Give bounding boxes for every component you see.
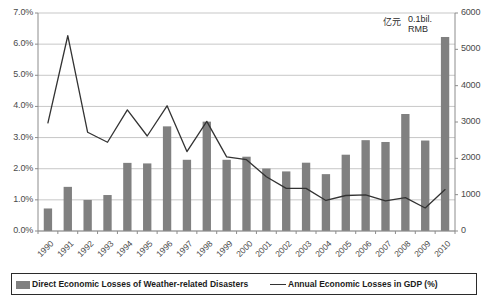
unit-label-english: 0.1bil. RMB xyxy=(408,14,448,34)
y-axis-right-tick: 0 xyxy=(461,225,493,235)
y-axis-right-tick: 2000 xyxy=(461,152,493,162)
bar-series xyxy=(44,37,449,231)
chart-legend: Direct Economic Losses of Weather-relate… xyxy=(11,273,477,295)
y-axis-right-tick: 5000 xyxy=(461,43,493,53)
legend-swatch-bar xyxy=(16,281,30,289)
unit-label-english-line1: 0.1bil. xyxy=(408,14,432,24)
chart-container: 0.0%1.0%2.0%3.0%4.0%5.0%6.0%7.0% 0100020… xyxy=(0,0,493,303)
y-axis-right-tick: 3000 xyxy=(461,116,493,126)
y-axis-left-tick: 1.0% xyxy=(1,194,33,204)
legend-item-bar: Direct Economic Losses of Weather-relate… xyxy=(32,278,248,291)
y-axis-right-tick: 6000 xyxy=(461,7,493,17)
y-axis-left-tick: 2.0% xyxy=(1,163,33,173)
y-axis-left-tick: 6.0% xyxy=(1,38,33,48)
legend-item-line: Annual Economic Losses in GDP (%) xyxy=(288,278,438,291)
y-axis-right-tick: 4000 xyxy=(461,80,493,90)
y-axis-right-tick: 1000 xyxy=(461,189,493,199)
unit-label-chinese: 亿元 xyxy=(383,17,401,27)
legend-swatch-line xyxy=(270,284,286,285)
y-axis-left-tick: 7.0% xyxy=(1,7,33,17)
unit-label-english-line2: RMB xyxy=(408,24,428,34)
y-axis-left-tick: 5.0% xyxy=(1,69,33,79)
y-axis-left-tick: 0.0% xyxy=(1,225,33,235)
y-axis-left-tick: 4.0% xyxy=(1,100,33,110)
y-axis-left-tick: 3.0% xyxy=(1,132,33,142)
